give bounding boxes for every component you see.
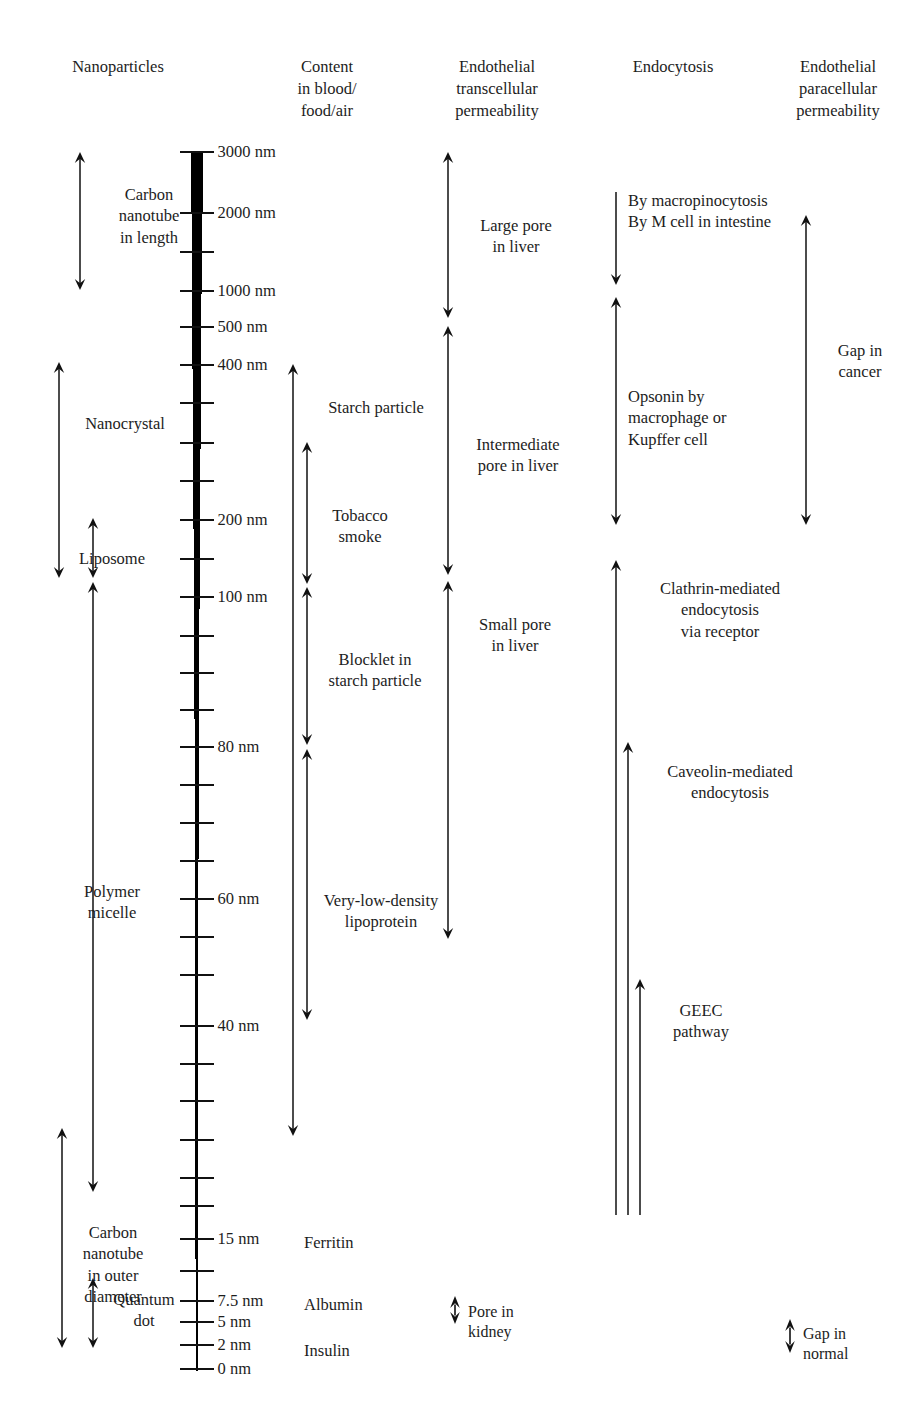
scale-tick-major [180,1344,214,1347]
endocytosis-label-clathrin: Clathrin-mediated endocytosis via recept… [628,578,812,642]
transcellular-label-large-pore: Large pore in liver [458,215,574,258]
endocytosis-label-geec: GEEC pathway [652,1000,750,1043]
scale-tick-label: 7.5 nm [218,1293,264,1310]
arrow-endocytosis-0 [606,192,626,285]
scale-tick-minor [180,822,214,824]
scale-tick-label: 15 nm [218,1231,260,1248]
arrow-transcellular-2 [438,581,458,939]
scale-tick-major [180,1368,214,1371]
scale-tick-label: 5 nm [218,1314,251,1331]
scale-tick-label: 60 nm [218,891,260,908]
scale-tick-label: 100 nm [218,589,268,606]
scale-tick-major [180,151,214,154]
scale-tick-label: 1000 nm [218,283,276,300]
arrow-content-3 [297,749,317,1020]
endocytosis-label-macropinocytosis: By macropinocytosis By M cell in intesti… [628,190,868,233]
scale-tick-label: 500 nm [218,319,268,336]
column-header-endocytosis: Endocytosis [588,56,758,78]
figure-canvas: Nanoparticles Content in blood/ food/air… [0,0,919,1409]
scale-tick-major [180,1238,214,1241]
content-label-vldl: Very-low-density lipoprotein [305,890,457,933]
column-header-paracellular: Endothelial paracellular permeability [762,56,914,121]
axis-segment [195,719,199,859]
scale-tick-label: 3000 nm [218,144,276,161]
scale-tick-major [180,746,214,749]
transcellular-label-small-pore: Small pore in liver [457,614,573,657]
scale-tick-minor [180,1270,214,1272]
column-header-transcellular: Endothelial transcellular permeability [412,56,582,121]
axis-segment [195,1059,197,1259]
paracellular-label-gap-in-cancer: Gap in cancer [816,340,904,383]
content-label-albumin: Albumin [304,1294,424,1315]
scale-tick-minor [180,635,214,637]
legend-label-pore-in-kidney: Pore in kidney [468,1302,578,1342]
scale-tick-minor [180,480,214,482]
scale-tick-minor [180,936,214,938]
scale-tick-minor [180,974,214,976]
content-label-starch-particle: Starch particle [302,397,450,418]
legend-label-gap-in-normal: Gap in normal [803,1324,913,1364]
axis-segment [192,294,201,369]
column-header-nanoparticles: Nanoparticles [28,56,208,78]
scale-tick-minor [180,784,214,786]
scale-tick-minor [180,709,214,711]
arrow-nanoparticle-0 [70,152,90,290]
scale-tick-major [180,364,214,367]
arrow-nanoparticle-1 [49,362,69,578]
scale-tick-minor [180,558,214,560]
axis-segment [193,449,200,529]
arrow-endocytosis-4 [630,979,650,1215]
axis-segment [196,1259,198,1371]
legend-symbol-gap-in-normal-icon [781,1319,799,1353]
scale-tick-label: 80 nm [218,739,260,756]
scale-tick-minor [180,1205,214,1207]
nanoparticle-label-quantum-dot: Quantum dot [100,1289,188,1332]
nanoparticle-label-liposome: Liposome [62,548,162,569]
arrow-paracellular-0 [796,215,816,525]
scale-tick-major [180,290,214,293]
scale-tick-label: 40 nm [218,1018,260,1035]
nanoparticle-label-nanocrystal: Nanocrystal [66,413,184,434]
content-label-ferritin: Ferritin [304,1232,424,1253]
arrow-transcellular-0 [438,152,458,318]
scale-tick-major [180,326,214,329]
content-label-insulin: Insulin [304,1340,424,1361]
scale-tick-label: 200 nm [218,512,268,529]
scale-tick-minor [180,1063,214,1065]
nanoparticle-label-carbon-nanotube-length: Carbon nanotube in length [95,184,203,248]
scale-tick-minor [180,402,214,404]
endocytosis-label-opsonin: Opsonin by macrophage or Kupffer cell [628,386,818,450]
scale-tick-label: 2000 nm [218,205,276,222]
scale-tick-minor [180,1100,214,1102]
scale-tick-label: 2 nm [218,1337,251,1354]
scale-tick-major [180,519,214,522]
axis-segment [195,859,198,1059]
scale-tick-major [180,898,214,901]
endocytosis-label-caveolin: Caveolin-mediated endocytosis [640,761,820,804]
axis-segment [194,609,199,719]
transcellular-label-intermediate-pore: Intermediate pore in liver [451,434,585,477]
axis-segment [193,369,201,449]
arrow-endocytosis-1 [606,297,626,525]
scale-tick-minor [180,442,214,444]
scale-tick-minor [180,860,214,862]
scale-tick-label: 0 nm [218,1361,251,1378]
content-label-tobacco-smoke: Tobacco smoke [312,505,408,548]
scale-tick-label: 400 nm [218,357,268,374]
content-label-blocklet: Blocklet in starch particle [303,649,447,692]
nanoparticle-label-polymer-micelle: Polymer micelle [60,881,164,924]
legend-symbol-pore-in-kidney-icon [446,1296,464,1324]
scale-tick-minor [180,251,214,253]
scale-tick-minor [180,672,214,674]
scale-tick-major [180,1025,214,1028]
scale-tick-minor [180,1139,214,1141]
scale-tick-minor [180,1177,214,1179]
column-header-content: Content in blood/ food/air [252,56,402,121]
scale-tick-major [180,596,214,599]
